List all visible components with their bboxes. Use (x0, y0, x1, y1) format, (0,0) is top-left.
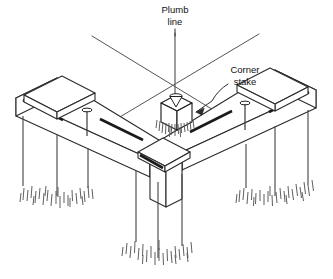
label-plumb-line: Plumb line (162, 4, 189, 27)
corner-stake-label-line2: stake (234, 76, 257, 87)
corner-stake-label-line1: Corner (230, 64, 259, 75)
plumb-line-label-line2: line (168, 16, 183, 27)
construction-diagram-svg: Plumb line Corner stake (0, 0, 333, 279)
plumb-line-label-line1: Plumb (162, 4, 189, 15)
diagram-canvas: Plumb line Corner stake (0, 0, 333, 279)
label-corner-stake: Corner stake (230, 64, 259, 87)
